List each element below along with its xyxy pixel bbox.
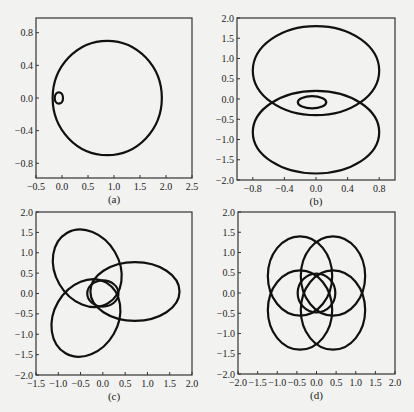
y-tick-label: 0.0 — [222, 94, 235, 105]
y-tick-label: 1.0 — [222, 53, 235, 64]
y-tick-label: 0.8 — [21, 27, 34, 38]
x-tick-label: −0.5 — [27, 181, 45, 192]
y-tick-label: 2.0 — [21, 207, 34, 218]
panel-label: (d) — [310, 389, 323, 402]
panel-d: −2.0−1.5−1.0−0.50.00.51.01.52.02.01.51.0… — [217, 207, 401, 403]
panel-label: (a) — [108, 193, 121, 206]
plot-frame — [36, 212, 192, 375]
panel-label: (c) — [108, 390, 121, 403]
panel-a: −0.50.00.51.01.52.02.50.80.40.0−0.4−0.8(… — [15, 18, 198, 206]
figure: −0.50.00.51.01.52.02.50.80.40.0−0.4−0.8(… — [0, 0, 414, 412]
x-tick-label: 0.0 — [310, 183, 323, 194]
y-tick-label: −0.4 — [15, 125, 33, 136]
x-tick-label: −1.0 — [49, 378, 67, 389]
y-tick-label: 2.0 — [223, 207, 236, 218]
y-tick-label: −2.0 — [217, 369, 235, 380]
x-tick-label: −0.4 — [275, 183, 293, 194]
plot-frame — [238, 212, 395, 374]
y-tick-label: 0.4 — [21, 60, 34, 71]
panel-label: (b) — [310, 195, 323, 208]
curve-inner-loop — [298, 96, 326, 108]
y-tick-label: −2.0 — [216, 175, 234, 186]
x-tick-label: 1.0 — [108, 181, 121, 192]
x-tick-label: 0.8 — [373, 183, 386, 194]
y-tick-label: −1.0 — [15, 329, 33, 340]
x-tick-label: 0.5 — [119, 378, 132, 389]
x-tick-label: 0.0 — [97, 378, 110, 389]
x-tick-label: −1.5 — [249, 377, 267, 388]
curve-lobe-lower-left — [38, 267, 134, 370]
y-tick-label: 1.5 — [21, 227, 34, 238]
curve-lower-lobe — [253, 91, 379, 174]
y-tick-label: −1.0 — [217, 328, 235, 339]
x-tick-label: 0.5 — [82, 181, 95, 192]
y-tick-label: 0.0 — [223, 288, 236, 299]
y-tick-label: 1.0 — [223, 247, 236, 258]
y-tick-label: 2.0 — [222, 13, 235, 24]
x-tick-label: 1.0 — [141, 378, 154, 389]
curve-lobe-right — [90, 262, 179, 321]
y-tick-label: 1.0 — [21, 247, 34, 258]
x-tick-label: 0.5 — [330, 377, 343, 388]
panel-c: −1.5−1.0−0.50.00.51.01.52.02.01.51.00.50… — [15, 207, 198, 404]
y-tick-label: −1.0 — [216, 134, 234, 145]
y-tick-label: −1.5 — [217, 348, 235, 359]
x-tick-label: −0.5 — [72, 378, 90, 389]
y-tick-label: −1.5 — [216, 154, 234, 165]
x-tick-label: 2.0 — [186, 378, 199, 389]
x-tick-label: −0.8 — [244, 183, 262, 194]
x-tick-label: 1.5 — [163, 378, 176, 389]
y-tick-label: 0.5 — [21, 268, 34, 279]
x-tick-label: 2.5 — [186, 181, 199, 192]
y-tick-label: −1.5 — [15, 349, 33, 360]
curve-outer-loop — [53, 41, 162, 155]
y-tick-label: 0.5 — [223, 267, 236, 278]
x-tick-label: 2.0 — [389, 377, 402, 388]
y-tick-label: −0.5 — [217, 308, 235, 319]
panel-b: −0.8−0.40.00.40.82.01.51.00.50.0−0.5−1.0… — [216, 13, 395, 209]
y-tick-label: 1.5 — [223, 227, 236, 238]
y-tick-label: −2.0 — [15, 370, 33, 381]
x-tick-label: 2.0 — [160, 181, 173, 192]
y-tick-label: 0.0 — [21, 288, 34, 299]
x-tick-label: 0.4 — [341, 183, 354, 194]
y-tick-label: −0.8 — [15, 158, 33, 169]
y-tick-label: 0.5 — [222, 73, 235, 84]
plot-frame — [237, 18, 395, 180]
curve-inner-loop — [55, 92, 63, 103]
y-tick-label: −0.5 — [216, 114, 234, 125]
x-tick-label: 0.0 — [310, 377, 323, 388]
x-tick-label: 1.5 — [369, 377, 382, 388]
x-tick-label: −1.0 — [268, 377, 286, 388]
x-tick-label: −0.5 — [288, 377, 306, 388]
x-tick-label: 1.0 — [350, 377, 363, 388]
curve-inner-loop — [87, 280, 118, 306]
x-tick-label: 0.0 — [56, 181, 69, 192]
y-tick-label: 1.5 — [222, 33, 235, 44]
y-tick-label: −0.5 — [15, 308, 33, 319]
x-tick-label: 1.5 — [134, 181, 147, 192]
y-tick-label: 0.0 — [21, 93, 34, 104]
